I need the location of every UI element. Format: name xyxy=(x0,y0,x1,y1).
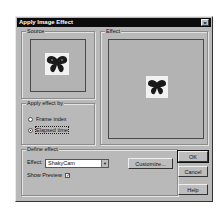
effect-group: Effect xyxy=(100,31,208,145)
effect-thumbnail xyxy=(146,76,168,98)
apply-image-effect-dialog: Apply Image Effect × Source Apply effect… xyxy=(15,16,213,202)
butterfly-icon xyxy=(147,79,167,95)
close-icon: × xyxy=(203,20,207,26)
help-button[interactable]: Help xyxy=(178,184,208,195)
define-effect-label: Define effect xyxy=(26,146,59,153)
cancel-button[interactable]: Cancel xyxy=(178,166,208,177)
source-preview xyxy=(30,39,86,92)
effect-dropdown[interactable]: ShakyCam ▼ xyxy=(45,159,109,168)
dialog-title: Apply Image Effect xyxy=(19,19,73,25)
show-preview-checkbox[interactable]: ✓ xyxy=(65,173,70,178)
apply-effect-by-label: Apply effect by xyxy=(26,100,64,107)
butterfly-icon xyxy=(46,55,68,73)
close-button[interactable]: × xyxy=(201,19,209,26)
apply-effect-by-group: Apply effect by Frame index Elapsed time xyxy=(21,103,95,145)
radio-elapsed-time[interactable]: Elapsed time xyxy=(28,127,68,133)
title-bar[interactable]: Apply Image Effect × xyxy=(17,18,211,27)
effect-dropdown-value: ShakyCam xyxy=(48,160,75,166)
effect-field-label: Effect: xyxy=(27,159,43,166)
radio-elapsed-time-label: Elapsed time xyxy=(36,127,68,133)
define-effect-group: Define effect Effect: ShakyCam ▼ Customi… xyxy=(21,149,178,196)
source-group: Source xyxy=(21,31,95,99)
radio-frame-index-button[interactable] xyxy=(28,117,33,122)
checkmark-icon: ✓ xyxy=(66,172,70,178)
effect-label: Effect xyxy=(105,28,121,35)
show-preview-row[interactable]: Show Preview ✓ xyxy=(27,172,70,179)
effect-preview xyxy=(108,39,204,139)
radio-frame-index[interactable]: Frame index xyxy=(28,116,67,122)
chevron-down-icon[interactable]: ▼ xyxy=(101,160,108,167)
ok-button[interactable]: OK xyxy=(178,151,208,162)
source-label: Source xyxy=(26,28,45,35)
radio-elapsed-time-button[interactable] xyxy=(28,128,33,133)
customize-button[interactable]: Customize... xyxy=(128,158,173,169)
radio-frame-index-label: Frame index xyxy=(36,116,67,122)
show-preview-label: Show Preview xyxy=(27,172,62,178)
source-thumbnail xyxy=(45,53,69,75)
